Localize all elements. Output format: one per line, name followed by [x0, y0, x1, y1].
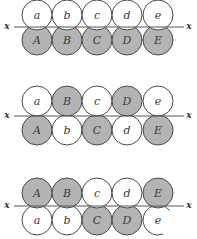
axis-label-right: x: [185, 200, 192, 210]
circle-label: b: [63, 9, 70, 22]
circle-label: b: [63, 124, 70, 137]
circle-label: e: [155, 95, 162, 108]
circle-label: c: [94, 95, 100, 108]
circle-label: A: [32, 124, 41, 137]
circle-label: B: [62, 34, 71, 47]
circle-label: C: [93, 34, 102, 47]
circle-label: c: [94, 9, 100, 22]
circle-label: a: [34, 95, 41, 108]
panel-2: AbCdEaBcDexx: [3, 86, 192, 145]
circle-label: d: [123, 187, 130, 200]
axis-label-left: x: [3, 200, 10, 210]
circle-label: d: [123, 9, 130, 22]
circle-label: a: [34, 9, 41, 22]
axis-label-right: x: [185, 21, 192, 31]
axis-label-right: x: [185, 110, 192, 120]
circle-label: A: [32, 187, 41, 200]
circle-label: E: [153, 187, 162, 200]
circle-label: D: [122, 214, 132, 227]
circle-label: E: [153, 34, 162, 47]
axis-label-left: x: [3, 110, 10, 120]
circle-rows-diagram: ABCDEabcdexxAbCdEaBcDexxabCDeABcdExx: [0, 0, 197, 239]
circle-label: C: [93, 214, 102, 227]
circle-label: e: [155, 9, 162, 22]
panel-1: ABCDEabcdexx: [3, 0, 192, 55]
circle-label: e: [155, 214, 162, 227]
circle-label: b: [63, 214, 70, 227]
axis-label-left: x: [3, 21, 10, 31]
panel-3: abCDeABcdExx: [3, 178, 192, 235]
circle-label: A: [32, 34, 41, 47]
circle-label: B: [62, 187, 71, 200]
circle-label: B: [62, 95, 71, 108]
circle-label: E: [153, 124, 162, 137]
circle-label: C: [93, 124, 102, 137]
circle-label: c: [94, 187, 100, 200]
circle-label: D: [122, 95, 132, 108]
circle-label: d: [123, 124, 130, 137]
circle-label: a: [34, 214, 41, 227]
circle-label: D: [122, 34, 132, 47]
